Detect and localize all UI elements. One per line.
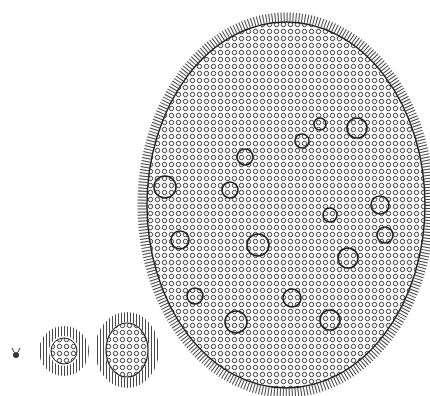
mature-colony bbox=[142, 17, 430, 393]
small-colony bbox=[44, 331, 84, 371]
single-cell bbox=[12, 348, 20, 358]
volvox-illustration bbox=[0, 0, 430, 396]
medium-colony bbox=[100, 317, 154, 383]
